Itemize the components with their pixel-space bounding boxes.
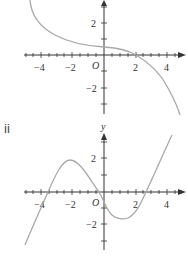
x-tick-label: −4: [34, 62, 45, 73]
figure: −4 −2 2 4 2 −2 O ii y: [0, 0, 188, 256]
x-tick-label: 4: [164, 62, 169, 73]
x-axis-arrow-icon: [178, 189, 186, 195]
origin-label: O: [92, 197, 99, 208]
origin-label: O: [92, 60, 99, 71]
y-tick-label: −2: [86, 219, 97, 230]
curve-top: [30, 0, 180, 115]
y-tick-label: 2: [91, 18, 96, 29]
x-tick-label: 4: [164, 199, 169, 210]
graph-bottom: ii y −4 −2: [4, 121, 186, 250]
x-tick-label: 2: [133, 62, 138, 73]
y-axis-arrow-icon: [101, 0, 107, 6]
curve-bottom: [25, 135, 172, 245]
x-tick-label: −2: [65, 199, 76, 210]
part-label: ii: [4, 121, 10, 136]
x-axis-arrow-icon: [178, 52, 186, 58]
y-tick-label: 2: [91, 153, 96, 164]
y-tick-label: −2: [86, 83, 97, 94]
y-axis-label: y: [100, 121, 106, 132]
x-tick-label: −2: [65, 62, 76, 73]
graph-top: −4 −2 2 4 2 −2 O: [24, 0, 186, 115]
y-axis-arrow-icon: [101, 133, 107, 140]
